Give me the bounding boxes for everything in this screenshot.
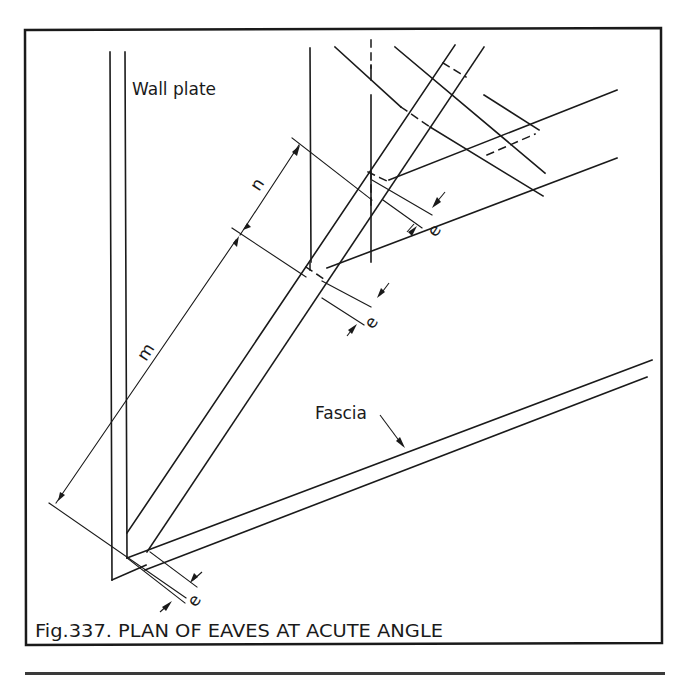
hidden-lines [306, 40, 535, 279]
dimension-e-upper-label: e [423, 221, 445, 241]
wall-plate-label: Wall plate [132, 79, 216, 99]
figure-border [25, 30, 661, 313]
eaves-plan-figure: Wall plate Fascia n m e e e Fig.337. PLA… [0, 0, 695, 675]
dimension-lines [56, 145, 299, 503]
arrow-shafts [160, 192, 445, 612]
hip-rafter [127, 45, 484, 552]
dimension-arrowheads [58, 145, 441, 611]
dimension-n-label: n [246, 174, 269, 194]
arrow-m-bottom-icon [58, 492, 65, 501]
arrow-e-lower-a-icon [190, 573, 198, 583]
dimension-m-label: m [133, 339, 159, 364]
fascia-label: Fascia [315, 403, 367, 423]
wall-plate [110, 52, 146, 580]
dimension-e-middle-label: e [360, 313, 382, 333]
jack-rafter-lines [310, 47, 617, 268]
figure-caption: Fig.337. PLAN OF EAVES AT ACUTE ANGLE [35, 621, 443, 641]
arrow-n-bottom-icon [243, 223, 251, 230]
dimension-e-lower-label: e [183, 591, 205, 611]
arrow-m-top-icon [233, 236, 239, 247]
eaves-plan-drawing: Wall plate Fascia n m e e e Fig.337. PLA… [0, 0, 695, 675]
